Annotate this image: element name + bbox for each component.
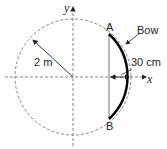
y-axis-label: y (64, 2, 69, 14)
x-axis-label: x (147, 73, 152, 85)
bow-diagram: y x 2 m A B Bow 30 cm (0, 0, 167, 149)
diagram-canvas (0, 0, 167, 149)
point-b-label: B (106, 121, 113, 132)
point-a-label: A (106, 22, 113, 33)
radius-label: 2 m (34, 57, 52, 68)
bow-arc (109, 34, 128, 119)
bow-label: Bow (137, 25, 158, 36)
sagitta-label: 30 cm (131, 57, 161, 68)
